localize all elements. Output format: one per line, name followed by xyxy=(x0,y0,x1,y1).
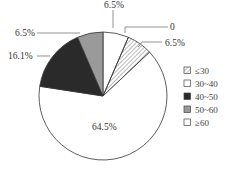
label-left: 16.1% xyxy=(8,51,33,61)
legend-label: 30~40 xyxy=(195,79,218,89)
label-top: 6.5% xyxy=(104,0,124,10)
pie-slices xyxy=(39,32,167,160)
legend: ≤30 30~40 40~50 50~60 ≥60 xyxy=(184,66,218,128)
label-right: 6.5% xyxy=(165,38,185,48)
legend-swatch-30-40 xyxy=(184,80,191,87)
label-zero: 0 xyxy=(170,22,175,32)
legend-label: 50~60 xyxy=(195,105,218,115)
legend-swatch-50-60 xyxy=(184,106,191,113)
label-center: 64.5% xyxy=(92,122,117,132)
legend-swatch-40-50 xyxy=(184,93,191,100)
legend-label: ≤30 xyxy=(195,66,209,76)
label-left-top: 6.5% xyxy=(15,28,35,38)
legend-label: 40~50 xyxy=(195,92,218,102)
legend-swatch-le30 xyxy=(184,67,191,74)
pie-chart: 6.5% 0 6.5% 6.5% 16.1% 64.5% ≤30 30~40 4… xyxy=(0,0,229,179)
legend-swatch-ge60 xyxy=(184,119,191,126)
legend-label: ≥60 xyxy=(195,118,209,128)
